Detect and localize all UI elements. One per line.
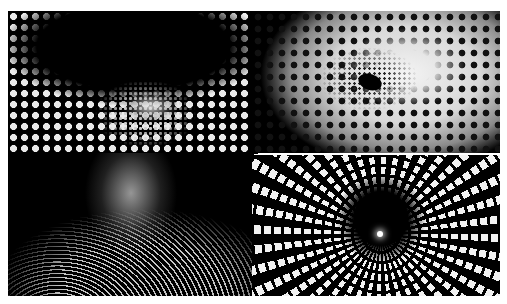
tunnel-center [252,155,500,296]
image-panel-dot-vortex [252,11,500,153]
image-panel-striped-peak [8,153,254,296]
flowing-stripes [8,153,254,296]
center-glow [8,11,258,154]
center-light [377,231,383,237]
image-panel-radial-tunnel [252,155,500,296]
image-panel-dot-funnel [8,11,258,154]
